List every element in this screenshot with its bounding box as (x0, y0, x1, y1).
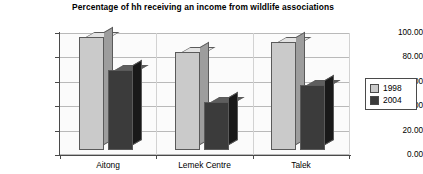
legend-item-1998: 1998 (370, 82, 412, 94)
bar-2004-talek (300, 85, 325, 150)
x-tick-mark (349, 155, 350, 159)
bar-front-face (204, 102, 229, 150)
y-tick-mark (55, 106, 60, 107)
bar-2004-aitong (108, 70, 133, 150)
y-tick-mark (55, 57, 60, 58)
gridline-vertical (253, 33, 254, 155)
y-tick-mark (55, 131, 60, 132)
bar-1998-talek (271, 42, 296, 150)
bar-front-face (300, 85, 325, 150)
bar-2004-lemek-centre (204, 102, 229, 150)
gridline-vertical (156, 33, 157, 155)
legend-label: 1998 (383, 84, 402, 93)
chart-legend: 1998 2004 (365, 78, 417, 110)
legend-swatch-icon (370, 96, 379, 105)
x-tick-mark (156, 155, 157, 159)
legend-label: 2004 (383, 96, 402, 105)
x-tick-mark (60, 155, 61, 159)
x-tick-mark (253, 155, 254, 159)
bar-front-face (175, 52, 200, 150)
legend-item-2004: 2004 (370, 94, 412, 106)
plot-area (60, 33, 350, 155)
y-tick-label: 0.00 (377, 151, 423, 159)
bar-side-face (133, 60, 142, 145)
y-tick-label: 80.00 (377, 53, 423, 61)
bar-front-face (108, 70, 133, 150)
y-tick-label: 100.00 (377, 29, 423, 37)
y-tick-label: 20.00 (377, 127, 423, 135)
bar-chart: Percentage of hh receiving an income fro… (0, 0, 423, 174)
legend-swatch-icon (370, 84, 379, 93)
x-tick-label-lemek-centre: Lemek Centre (156, 160, 253, 170)
bar-side-face (229, 92, 238, 145)
y-axis-line (59, 32, 60, 156)
y-tick-mark (55, 82, 60, 83)
bar-front-face (79, 37, 104, 150)
bar-front-face (271, 42, 296, 150)
x-axis-line (59, 155, 351, 156)
bar-1998-aitong (79, 37, 104, 150)
y-tick-mark (55, 33, 60, 34)
bar-1998-lemek-centre (175, 52, 200, 150)
gridline-vertical (349, 33, 350, 155)
bar-side-face (325, 75, 334, 145)
x-tick-label-aitong: Aitong (60, 160, 156, 170)
chart-title: Percentage of hh receiving an income fro… (48, 1, 358, 13)
x-tick-label-talek: Talek (253, 160, 349, 170)
